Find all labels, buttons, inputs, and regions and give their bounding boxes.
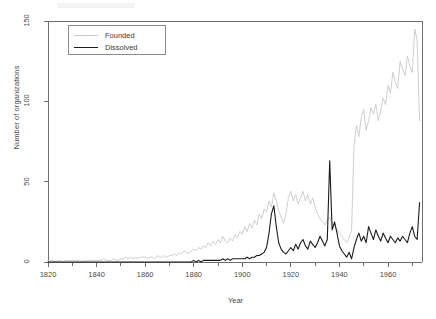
- y-axis-title: Number of organizations: [12, 48, 21, 168]
- data-series: [48, 29, 420, 262]
- x-tick-label: 1880: [176, 270, 212, 279]
- legend-item-founded: Founded: [74, 29, 135, 41]
- axis-ticks: [44, 21, 412, 267]
- x-tick-label: 1900: [224, 270, 260, 279]
- legend-item-dissolved: Dissolved: [74, 41, 138, 53]
- legend-label-founded: Founded: [105, 31, 135, 40]
- x-tick-label: 1920: [273, 270, 309, 279]
- axis-lines: [48, 21, 422, 262]
- legend-swatch-founded-icon: [74, 35, 98, 36]
- x-tick-label: 1860: [127, 270, 163, 279]
- legend-label-dissolved: Dissolved: [105, 43, 138, 52]
- x-tick-label: 1820: [30, 270, 66, 279]
- x-axis-title: Year: [48, 296, 423, 305]
- y-tick-label: 150: [22, 10, 31, 32]
- y-tick-label: 100: [22, 90, 31, 112]
- chart-legend: Founded Dissolved: [68, 25, 166, 55]
- x-tick-label: 1960: [370, 270, 406, 279]
- y-tick-label: 50: [22, 170, 31, 192]
- legend-swatch-dissolved-icon: [74, 47, 98, 48]
- x-tick-label: 1940: [321, 270, 357, 279]
- series-line-dissolved: [48, 161, 420, 262]
- series-line-founded: [48, 29, 420, 262]
- chart-figure: Number of organizations Year 050100150 1…: [0, 0, 436, 319]
- x-tick-label: 1840: [79, 270, 115, 279]
